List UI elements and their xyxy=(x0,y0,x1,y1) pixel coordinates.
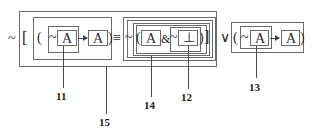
right-negation: ~ xyxy=(125,31,133,45)
left-atom-1: A xyxy=(62,32,72,46)
third-atom-2: A xyxy=(286,32,296,46)
right-close-paren: ) xyxy=(199,31,204,45)
leader-line-13 xyxy=(256,46,257,78)
and-symbol: & xyxy=(161,32,170,46)
right-atom: A xyxy=(146,32,156,46)
equiv-symbol: ≡ xyxy=(113,31,121,45)
open-bracket: [ xyxy=(22,31,27,45)
leader-line-11 xyxy=(63,46,64,88)
leader-line-12 xyxy=(188,46,189,89)
right-negation-2: ~ xyxy=(170,31,178,45)
label-11: 11 xyxy=(56,90,66,102)
leader-line-14 xyxy=(151,56,152,97)
prefix-negation: ~ xyxy=(8,32,16,46)
falsum-symbol: ⊥ xyxy=(183,31,195,45)
third-open-paren: ( xyxy=(233,31,238,45)
left-close-paren: ) xyxy=(108,31,113,45)
close-bracket: ] xyxy=(204,30,209,44)
left-atom-2: A xyxy=(93,32,103,46)
or-symbol: ∨ xyxy=(220,31,230,45)
right-open-paren: ( xyxy=(136,31,141,45)
label-15: 15 xyxy=(99,116,110,128)
label-13: 13 xyxy=(249,81,260,93)
conditional-arrow xyxy=(78,38,87,39)
third-atom-1: A xyxy=(255,32,265,46)
leader-line-15 xyxy=(106,67,107,114)
third-negation: ~ xyxy=(241,31,249,45)
conditional-arrow xyxy=(270,38,279,39)
left-negation: ~ xyxy=(49,31,57,45)
label-12: 12 xyxy=(181,91,192,103)
label-14: 14 xyxy=(144,99,155,111)
left-open-paren: ( xyxy=(37,31,42,45)
third-close-paren: ) xyxy=(300,31,305,45)
